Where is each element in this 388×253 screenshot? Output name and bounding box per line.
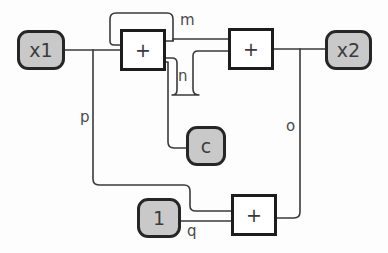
adder-block-1[interactable]: + [120, 29, 166, 71]
wire-label-p: p [80, 110, 90, 125]
adder-block-2-label: + [243, 40, 259, 59]
node-x2-label: x2 [337, 41, 360, 60]
block-diagram-canvas: x1 x2 c 1 + + + m n o p q [0, 0, 388, 253]
adder-block-3[interactable]: + [231, 194, 277, 236]
node-one-label: 1 [153, 209, 165, 228]
wire-label-q: q [187, 224, 197, 239]
node-x1-label: x1 [29, 41, 52, 60]
wire-m-to-add2 [166, 39, 228, 41]
node-c[interactable]: c [186, 126, 226, 166]
wire-n-to-add2 [166, 51, 228, 95]
wire-label-o: o [286, 119, 295, 134]
node-c-label: c [201, 137, 211, 156]
node-x1[interactable]: x1 [17, 30, 65, 70]
node-x2[interactable]: x2 [325, 30, 372, 70]
wire-label-m: m [180, 13, 195, 28]
node-one[interactable]: 1 [137, 198, 181, 238]
adder-block-1-label: + [135, 41, 151, 60]
adder-block-2[interactable]: + [228, 28, 274, 70]
adder-block-3-label: + [246, 206, 262, 225]
wire-label-n: n [178, 69, 188, 84]
